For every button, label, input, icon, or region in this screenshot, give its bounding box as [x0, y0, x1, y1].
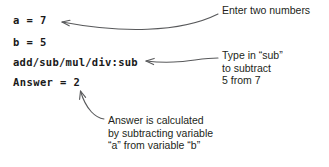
code-line-operation: add/sub/mul/div:sub [13, 57, 138, 68]
arrow-to-inputs-head [62, 20, 70, 26]
code-line-variable-a: a = 7 [13, 15, 47, 26]
annotated-code-figure: a = 7 b = 5 add/sub/mul/div:sub Answer =… [0, 0, 329, 167]
arrow-to-inputs-icon [62, 14, 218, 29]
arrow-to-answer-head [80, 91, 86, 99]
arrow-to-operation-head [146, 58, 154, 64]
arrow-to-operation-icon [146, 58, 218, 62]
annotation-enter-two-numbers: Enter two numbers [222, 4, 310, 17]
code-line-variable-b: b = 5 [13, 37, 47, 48]
arrow-to-answer-icon [81, 91, 105, 119]
annotation-answer-calculated: Answer is calculated by subtracting vari… [108, 114, 213, 152]
annotation-type-in-sub: Type in “sub” to subtract 5 from 7 [222, 49, 283, 87]
code-line-answer: Answer = 2 [13, 77, 80, 88]
